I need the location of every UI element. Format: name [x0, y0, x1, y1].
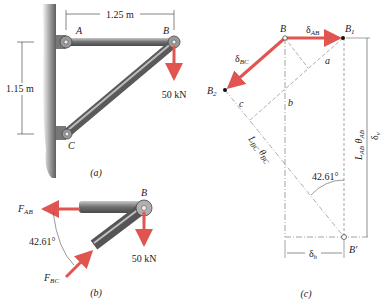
label-delta-v: δv	[369, 131, 382, 140]
dim-1-25m: 1.25 m	[106, 9, 134, 20]
force-FBC-label: FBC	[43, 272, 59, 285]
member-BC	[67, 44, 173, 133]
label-LAB-thetaAB: LAB θAB	[353, 129, 366, 161]
figure-a: 1.25 m 1.15 m 50 kN A B C (a)	[2, 4, 186, 179]
label-B-c: B	[280, 23, 286, 34]
label-Bprime: B′	[349, 244, 358, 255]
label-B2: B2	[207, 85, 217, 98]
label-a: a	[325, 55, 330, 66]
caption-b: (b)	[90, 287, 102, 299]
caption-c: (c)	[300, 288, 312, 300]
angle-label-c: 42.61°	[312, 171, 339, 182]
truss-deflection-diagram: 1.25 m 1.15 m 50 kN A B C (a) B	[0, 0, 387, 304]
force-FBC-arrow	[66, 252, 91, 277]
load-label-b: 50 kN	[132, 253, 157, 264]
member-AB	[66, 38, 174, 46]
label-b: b	[288, 97, 293, 108]
label-delta-AB: δAB	[306, 24, 320, 37]
point-B1	[341, 36, 345, 40]
point-B	[283, 36, 287, 40]
angle-label-b: 42.61°	[29, 236, 56, 247]
figure-c: δh 42.61° B B1 B2 B′ δAB δBC a b c LBC θ…	[207, 23, 382, 300]
member-BC-stub	[94, 208, 143, 245]
load-label-a: 50 kN	[162, 89, 187, 100]
label-delta-BC: δBC	[235, 53, 249, 66]
label-LBC-thetaBC: LBC θBC	[244, 133, 274, 166]
force-FAB-label: FAB	[17, 203, 33, 216]
angle-arc-b	[53, 212, 74, 265]
label-B-fbd: B	[141, 187, 147, 198]
label-c: c	[239, 98, 244, 109]
label-A: A	[75, 25, 83, 36]
label-B: B	[163, 25, 169, 36]
label-C: C	[68, 140, 75, 151]
perpendicular-B1	[250, 38, 343, 120]
figure-b: B FAB FBC 42.61° 50 kN (b)	[17, 187, 156, 299]
wall	[42, 4, 56, 178]
caption-a: (a)	[90, 167, 102, 179]
label-B1: B1	[345, 23, 355, 36]
point-Bprime	[342, 235, 347, 240]
point-B2	[223, 88, 227, 92]
angle-arc-c	[311, 180, 344, 195]
dim-1-15m: 1.15 m	[6, 83, 34, 94]
line-B2-Bprime	[225, 90, 344, 237]
